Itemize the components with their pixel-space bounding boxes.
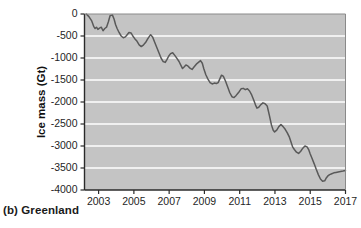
y-tick-label: -500 bbox=[56, 29, 77, 41]
x-tick-label: 2007 bbox=[157, 195, 181, 207]
y-tick-label: -1000 bbox=[51, 51, 78, 63]
x-tick-label: 2003 bbox=[87, 195, 111, 207]
x-tick-label: 2017 bbox=[334, 195, 358, 207]
x-tick-label: 2005 bbox=[122, 195, 146, 207]
y-tick-label: -3500 bbox=[51, 161, 78, 173]
y-tick-label: -3000 bbox=[51, 139, 78, 151]
x-tick-label: 2015 bbox=[299, 195, 323, 207]
y-tick-label: -2500 bbox=[51, 117, 78, 129]
y-axis-title: Ice mass (Gt) bbox=[35, 66, 47, 138]
y-tick-label: -1500 bbox=[51, 73, 78, 85]
y-tick-label: 0 bbox=[72, 7, 78, 19]
y-tick-label: -2000 bbox=[51, 95, 78, 107]
figure-caption: (b) Greenland bbox=[3, 204, 79, 216]
figure-panel-greenland: 0-500-1000-1500-2000-2500-3000-3500-4000… bbox=[0, 0, 361, 228]
ice-mass-line-chart: 0-500-1000-1500-2000-2500-3000-3500-4000… bbox=[0, 0, 361, 228]
x-tick-label: 2011 bbox=[228, 195, 251, 207]
x-tick-label: 2009 bbox=[193, 195, 217, 207]
y-tick-label: -4000 bbox=[51, 183, 78, 195]
x-tick-label: 2013 bbox=[263, 195, 287, 207]
